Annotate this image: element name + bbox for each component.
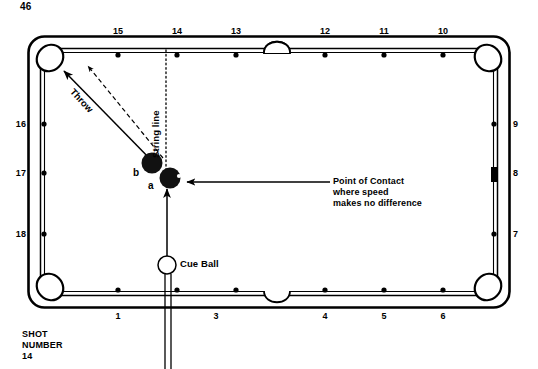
ball-b-label: b	[133, 167, 139, 178]
object-ball-a	[160, 168, 181, 189]
rail-number-bottom-4: 4	[316, 311, 334, 321]
point-of-contact-line-1: Point of Contact	[333, 176, 422, 187]
shot-label-line3: 14	[22, 351, 63, 362]
rail-number-right-9: 9	[513, 119, 529, 129]
contact-point-marker	[177, 174, 181, 178]
diamond-marker-highlight	[491, 167, 498, 182]
billiards-diagram-page: 46 SHOT NUMBER 14	[0, 0, 538, 369]
string-line-label: String line	[150, 110, 161, 158]
rail-number-right-7: 7	[513, 229, 529, 239]
rail-number-bottom-5: 5	[375, 311, 393, 321]
cue-ball	[158, 256, 176, 274]
table-outer-frame	[29, 37, 510, 308]
page-number: 46	[20, 1, 32, 12]
point-of-contact-line-2: where speed	[333, 187, 422, 198]
rail-number-top-11: 11	[375, 26, 393, 36]
rail-number-bottom-3: 3	[207, 311, 225, 321]
shot-number-block: SHOT NUMBER 14	[22, 329, 63, 362]
point-of-contact-label: Point of Contact where speed makes no di…	[333, 176, 422, 209]
rail-number-top-15: 15	[109, 26, 127, 36]
cue-ball-label: Cue Ball	[180, 258, 219, 269]
rail-number-top-14: 14	[168, 26, 186, 36]
rail-number-bottom-6: 6	[434, 311, 452, 321]
rail-number-left-17: 17	[10, 168, 26, 178]
rail-number-top-10: 10	[434, 26, 452, 36]
rail-number-left-16: 16	[10, 119, 26, 129]
pool-table-graphic	[0, 0, 538, 369]
rail-number-top-13: 13	[227, 26, 245, 36]
ball-a-label: a	[148, 180, 154, 191]
rail-number-right-8: 8	[513, 168, 529, 178]
point-of-contact-line-3: makes no difference	[333, 198, 422, 209]
rail-number-left-18: 18	[10, 229, 26, 239]
shot-label-line2: NUMBER	[22, 340, 63, 351]
shot-label-line1: SHOT	[22, 329, 63, 340]
rail-number-bottom-1: 1	[109, 311, 127, 321]
rail-number-top-12: 12	[316, 26, 334, 36]
